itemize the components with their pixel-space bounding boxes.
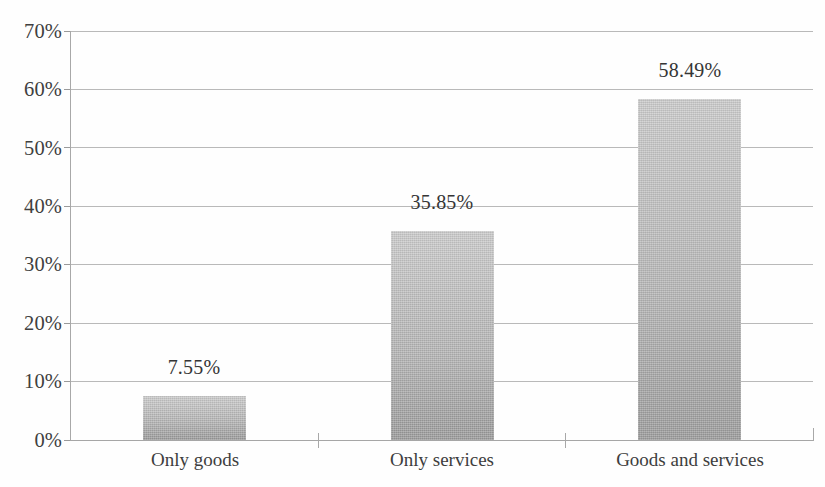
bar-value-label-only-services: 35.85% xyxy=(411,192,474,212)
y-axis-tick-label-10: 10% xyxy=(24,371,62,392)
x-axis-category-label-only-services: Only services xyxy=(390,450,494,469)
y-axis-tick-label-40: 40% xyxy=(24,196,62,217)
y-axis-tick-label-50: 50% xyxy=(24,138,62,159)
x-axis-line xyxy=(70,440,814,441)
plot-area xyxy=(70,31,813,440)
bar-chart: 70% 60% 50% 40% 30% 20% 10% 0% 7.55% 35.… xyxy=(0,0,825,487)
bar-only-goods[interactable] xyxy=(143,396,246,440)
x-axis-category-label-goods-and-services: Goods and services xyxy=(616,450,764,469)
bar-value-label-only-goods: 7.55% xyxy=(168,357,221,377)
y-axis-line xyxy=(70,31,71,441)
x-axis-right-end-tick xyxy=(813,428,814,441)
y-axis-tick-label-60: 60% xyxy=(24,79,62,100)
bar-only-services[interactable] xyxy=(391,231,494,440)
bar-value-label-goods-and-services: 58.49% xyxy=(659,60,722,80)
y-axis-tick-label-70: 70% xyxy=(24,21,62,42)
x-axis-separator-tick-2 xyxy=(565,433,566,448)
x-axis-category-label-only-goods: Only goods xyxy=(151,450,239,469)
y-axis-tick-label-20: 20% xyxy=(24,313,62,334)
bar-goods-and-services[interactable] xyxy=(638,99,741,440)
x-axis-separator-tick-1 xyxy=(318,433,319,448)
y-axis-tick-label-30: 30% xyxy=(24,254,62,275)
y-axis-tick-label-0: 0% xyxy=(34,430,62,451)
gridline-70 xyxy=(70,31,813,32)
gridline-60 xyxy=(70,89,813,90)
